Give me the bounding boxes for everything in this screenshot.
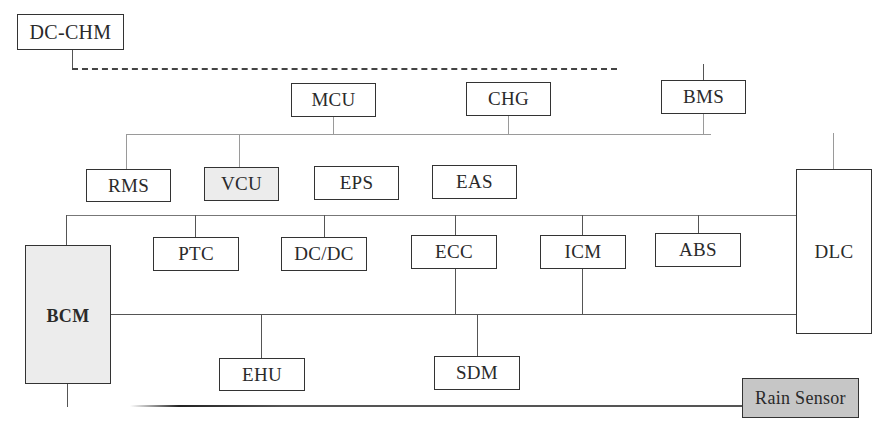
node-rain-sensor[interactable]: Rain Sensor	[742, 378, 859, 418]
node-ecc-label: ECC	[435, 241, 473, 263]
node-vcu[interactable]: VCU	[204, 167, 279, 201]
node-dc-chm-label: DC-CHM	[30, 21, 112, 44]
bcm-bottom-stub	[67, 383, 68, 407]
node-vcu-label: VCU	[221, 173, 262, 195]
node-chg[interactable]: CHG	[466, 82, 551, 116]
sdm-bus-drop	[477, 314, 478, 356]
body-lower-bus	[111, 314, 796, 315]
node-ptc[interactable]: PTC	[153, 237, 239, 271]
node-eas-label: EAS	[456, 171, 493, 193]
ehu-bus-drop	[261, 314, 262, 358]
body-upper-bus	[66, 215, 796, 216]
node-chg-label: CHG	[488, 88, 529, 110]
node-eas[interactable]: EAS	[432, 165, 517, 199]
node-ecc[interactable]: ECC	[411, 235, 497, 269]
ptc-bus-drop	[195, 215, 196, 237]
node-mcu-label: MCU	[311, 89, 355, 111]
node-bms-label: BMS	[683, 86, 724, 108]
bms-top-stub	[703, 64, 704, 81]
node-icm[interactable]: ICM	[540, 235, 626, 269]
node-sdm[interactable]: SDM	[434, 356, 520, 390]
dc-chm-dashdot-line	[72, 68, 617, 70]
icm-upper-drop	[582, 215, 583, 235]
node-dcdc[interactable]: DC/DC	[281, 237, 367, 271]
abs-bus-drop	[698, 215, 699, 233]
node-dcdc-label: DC/DC	[294, 243, 354, 265]
rain-sensor-line	[130, 405, 742, 407]
vcu-bus-drop	[239, 134, 240, 167]
node-ehu-label: EHU	[242, 364, 282, 386]
bms-bus-drop	[703, 114, 704, 134]
mcu-bus-drop	[333, 116, 334, 134]
bcm-upper-drop	[66, 215, 67, 245]
node-abs-label: ABS	[679, 239, 717, 261]
ecc-lower-drop	[455, 268, 456, 314]
dc-chm-drop-line	[72, 49, 73, 69]
node-mcu[interactable]: MCU	[291, 83, 376, 117]
powertrain-bus	[126, 134, 711, 135]
network-topology-diagram: DC-CHM MCU CHG BMS RMS VCU EPS EAS DLC B…	[0, 0, 890, 437]
node-bcm[interactable]: BCM	[25, 245, 111, 384]
node-eps-label: EPS	[340, 172, 374, 194]
node-dlc-label: DLC	[815, 241, 854, 263]
node-icm-label: ICM	[565, 241, 602, 263]
dlc-top-line	[833, 133, 834, 169]
ecc-upper-drop	[455, 215, 456, 235]
node-bcm-label: BCM	[47, 306, 90, 327]
node-bms[interactable]: BMS	[661, 80, 746, 114]
dcdc-bus-drop	[324, 215, 325, 237]
node-rain-sensor-label: Rain Sensor	[755, 388, 846, 409]
chg-bus-drop	[508, 115, 509, 134]
node-dlc[interactable]: DLC	[796, 169, 872, 334]
node-dc-chm[interactable]: DC-CHM	[17, 14, 124, 50]
node-abs[interactable]: ABS	[655, 233, 741, 267]
node-ehu[interactable]: EHU	[219, 358, 305, 391]
node-rms[interactable]: RMS	[86, 169, 171, 202]
node-ptc-label: PTC	[178, 243, 214, 265]
node-sdm-label: SDM	[456, 362, 498, 384]
icm-lower-drop	[582, 268, 583, 314]
node-eps[interactable]: EPS	[314, 166, 399, 200]
rms-bus-drop	[126, 134, 127, 170]
node-rms-label: RMS	[108, 175, 149, 197]
